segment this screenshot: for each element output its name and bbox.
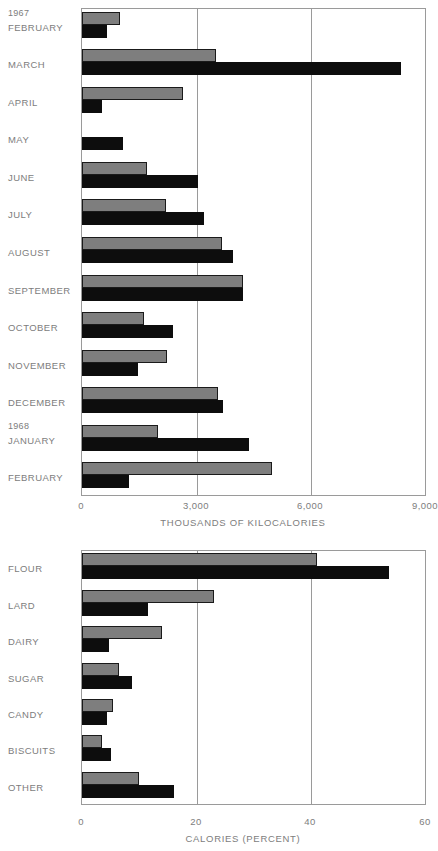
bar-gray [82, 12, 120, 25]
category-label: AUGUST [8, 247, 78, 258]
bar-gray [82, 199, 166, 212]
bar-gray [82, 462, 272, 475]
category-label: FEBRUARY [8, 472, 78, 483]
x-tick-label: 0 [78, 816, 84, 827]
category-label: APRIL [8, 97, 78, 108]
bar-black [82, 137, 123, 150]
bar-gray [82, 425, 158, 438]
bar-gray [82, 772, 139, 785]
bar-gray [82, 87, 183, 100]
x-tick-label: 9,000 [412, 500, 438, 511]
x-tick-label: 40 [304, 816, 315, 827]
x-tick-label: 20 [190, 816, 201, 827]
category-label: MARCH [8, 59, 78, 70]
category-label: SEPTEMBER [8, 285, 78, 296]
bar-gray [82, 275, 243, 288]
bar-black [82, 566, 389, 579]
category-label: NOVEMBER [8, 360, 78, 371]
category-label: JANUARY [8, 435, 78, 446]
bar-gray [82, 237, 222, 250]
bar-gray [82, 49, 216, 62]
monthly-kilocalories-chart: FEBRUARY1967MARCHAPRILMAYJUNEJULYAUGUSTS… [0, 0, 438, 530]
bar-black [82, 639, 109, 652]
x-tick-label: 6,000 [297, 500, 323, 511]
bar-black [82, 62, 401, 75]
monthly-x-axis-title: THOUSANDS OF KILOCALORIES [0, 517, 438, 528]
category-label: JULY [8, 209, 78, 220]
bar-black [82, 712, 107, 725]
bar-gray [82, 387, 218, 400]
category-label: MAY [8, 134, 78, 145]
category-label: OTHER [8, 782, 78, 793]
category-label: FEBRUARY [8, 22, 78, 33]
category-label: LARD [8, 600, 78, 611]
composition-x-axis-title: CALORIES (PERCENT) [0, 833, 438, 844]
year-label: 1967 [8, 8, 29, 18]
bar-gray [82, 699, 113, 712]
category-label: SUGAR [8, 673, 78, 684]
category-label: FLOUR [8, 563, 78, 574]
bar-black [82, 25, 107, 38]
x-tick-label: 3,000 [183, 500, 209, 511]
bar-gray [82, 735, 102, 748]
bar-gray [82, 312, 144, 325]
bar-black [82, 438, 249, 451]
x-tick-label: 60 [419, 816, 430, 827]
bar-black [82, 325, 173, 338]
bar-black [82, 363, 138, 376]
bar-gray [82, 590, 214, 603]
category-label: JUNE [8, 172, 78, 183]
bar-gray [82, 350, 167, 363]
category-label: OCTOBER [8, 322, 78, 333]
bar-black [82, 212, 204, 225]
composition-plot-area [81, 550, 426, 805]
bar-gray [82, 626, 162, 639]
category-label: DAIRY [8, 636, 78, 647]
bar-gray [82, 663, 119, 676]
bar-black [82, 100, 102, 113]
bar-gray [82, 162, 147, 175]
year-label: 1968 [8, 421, 29, 431]
bar-black [82, 785, 174, 798]
bar-black [82, 475, 129, 488]
bar-black [82, 288, 243, 301]
gridline [311, 9, 312, 495]
x-tick-label: 0 [78, 500, 84, 511]
bar-black [82, 748, 111, 761]
bar-gray [82, 553, 317, 566]
category-label: CANDY [8, 709, 78, 720]
category-label: DECEMBER [8, 397, 78, 408]
gridline [311, 551, 312, 804]
bar-black [82, 400, 223, 413]
bar-black [82, 175, 198, 188]
bar-black [82, 676, 132, 689]
bar-black [82, 250, 233, 263]
category-label: BISCUITS [8, 745, 78, 756]
bar-black [82, 603, 148, 616]
calorie-composition-chart: FLOURLARDDAIRYSUGARCANDYBISCUITSOTHER 02… [0, 530, 438, 851]
